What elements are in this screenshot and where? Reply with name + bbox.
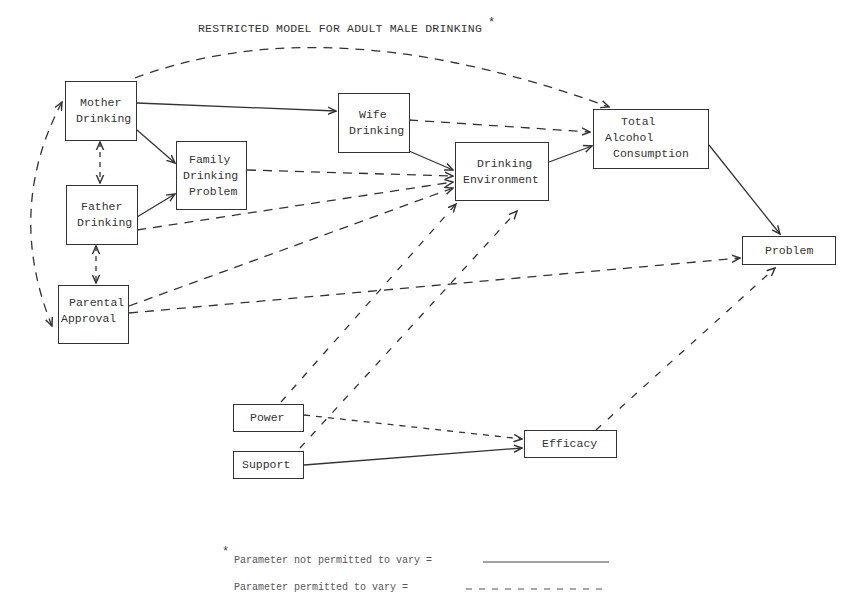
edge-wife-total (409, 120, 590, 132)
node-total-alcohol-consumption: Total Alcohol Consumption (593, 109, 709, 169)
node-label: Support (242, 457, 303, 473)
node-drinking-environment: Drinking Environment (455, 142, 549, 201)
legend-free-label: Parameter permitted to vary = (234, 582, 408, 593)
node-problem: Problem (742, 236, 836, 265)
edge-environment-total (549, 146, 592, 162)
node-efficacy: Efficacy (524, 430, 617, 458)
edge-power-efficacy (304, 415, 522, 439)
node-wife-drinking: Wife Drinking (338, 93, 410, 153)
diagram-title: RESTRICTED MODEL FOR ADULT MALE DRINKING… (198, 22, 495, 36)
node-label: Approval (61, 311, 128, 327)
node-parental-approval: Parental Approval (58, 285, 129, 344)
edge-efficacy-problem (596, 268, 775, 430)
node-label: Wife (349, 107, 409, 123)
node-label: Drinking (77, 215, 137, 231)
edge-support-efficacy (304, 448, 522, 465)
edge-mother-family (137, 130, 175, 163)
legend-fixed-label: Parameter not permitted to vary = (234, 555, 432, 566)
edge-mother-wife (137, 103, 336, 111)
node-family-drinking-problem: Family Drinking Problem (176, 141, 247, 210)
node-label: Family (183, 152, 246, 168)
node-label: Drinking (76, 111, 136, 127)
legend-footnote-marker: * (222, 545, 229, 559)
node-label: Total (605, 114, 708, 130)
edge-parental-problem (129, 258, 740, 313)
node-label: Drinking (349, 123, 409, 139)
edge-family-environment (247, 170, 453, 176)
node-mother-drinking: Mother Drinking (65, 81, 137, 141)
edge-wife-environment (409, 151, 453, 170)
node-label: Problem (765, 243, 835, 259)
node-father-drinking: Father Drinking (66, 185, 138, 245)
edge-father-family (137, 194, 175, 217)
edge-support-environment (300, 211, 517, 448)
node-label: Drinking (183, 168, 246, 184)
node-label: Environment (463, 172, 548, 188)
node-label: Mother (76, 95, 136, 111)
node-support: Support (233, 451, 304, 479)
node-label: Father (77, 199, 137, 215)
node-label: Alcohol (605, 130, 708, 146)
title-footnote-marker: * (488, 16, 495, 30)
node-label: Drinking (463, 156, 548, 172)
node-label: Efficacy (542, 436, 616, 452)
node-label: Power (250, 410, 303, 426)
title-text: RESTRICTED MODEL FOR ADULT MALE DRINKING (198, 22, 482, 35)
edge-total-problem (709, 145, 780, 234)
node-power: Power (233, 404, 304, 432)
node-label: Problem (183, 184, 246, 200)
node-label: Consumption (605, 146, 708, 162)
node-label: Parental (61, 295, 128, 311)
